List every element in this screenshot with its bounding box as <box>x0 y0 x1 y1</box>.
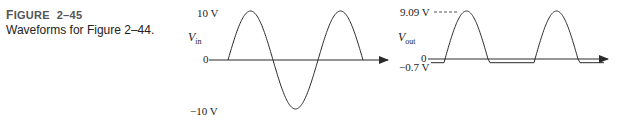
vout-rectified-waveform <box>431 11 604 63</box>
vin-axis-label: Vin <box>188 30 202 46</box>
vout-positive-peak-label: 9.09 V <box>400 6 430 18</box>
vout-axis-label: Vout <box>398 30 416 46</box>
vin-zero-label: 0 <box>203 53 209 65</box>
vout-subscript: out <box>405 37 416 46</box>
vout-negative-level-label: −0.7 V <box>399 61 430 73</box>
waveform-diagram: 10 V Vin 0 −10 V 9.09 V Vout 0 −0.7 V <box>0 0 632 121</box>
vin-subscript: in <box>195 37 201 46</box>
output-plot: 9.09 V Vout 0 −0.7 V <box>398 6 608 73</box>
input-plot: 10 V Vin 0 −10 V <box>188 7 388 117</box>
vin-negative-peak-label: −10 V <box>190 105 218 117</box>
vin-positive-peak-label: 10 V <box>197 7 219 19</box>
